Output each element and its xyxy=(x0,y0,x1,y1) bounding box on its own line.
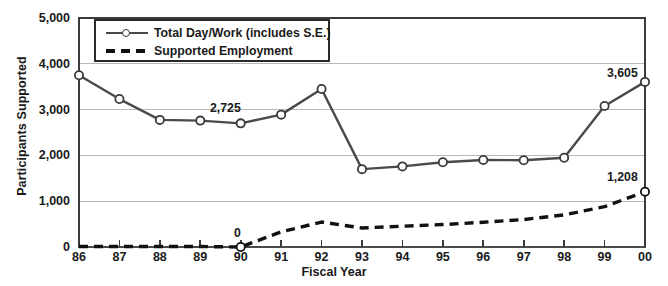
marker-total-94 xyxy=(398,162,406,170)
data-point-markers xyxy=(75,71,649,251)
marker-total-92 xyxy=(317,85,325,93)
line-supported-employment xyxy=(79,192,645,247)
chart-container: Participants Supported Fiscal Year 5,000… xyxy=(0,0,668,286)
marker-total-90 xyxy=(237,119,245,127)
marker-total-89 xyxy=(196,116,204,124)
marker-total-98 xyxy=(560,154,568,162)
marker-se-00 xyxy=(641,188,649,196)
marker-total-96 xyxy=(479,156,487,164)
marker-total-99 xyxy=(600,102,608,110)
marker-total-88 xyxy=(156,116,164,124)
legend-label-total-day-work: Total Day/Work (includes S.E.) xyxy=(154,26,331,40)
legend-item-supported-employment: Supported Employment xyxy=(104,42,322,60)
marker-total-93 xyxy=(358,165,366,173)
marker-total-86 xyxy=(75,71,83,79)
data-label-1208: 1,208 xyxy=(607,170,638,184)
chart-legend: Total Day/Work (includes S.E.) Supported… xyxy=(94,19,330,62)
marker-total-87 xyxy=(115,95,123,103)
data-label-2725: 2,725 xyxy=(210,101,241,115)
marker-total-00 xyxy=(641,78,649,86)
marker-total-97 xyxy=(520,156,528,164)
legend-item-total-day-work: Total Day/Work (includes S.E.) xyxy=(104,24,322,42)
data-label-0: 0 xyxy=(234,226,241,240)
marker-total-95 xyxy=(439,158,447,166)
legend-swatch-dashed-line-icon xyxy=(104,44,150,58)
data-label-3605: 3,605 xyxy=(607,66,638,80)
legend-swatch-solid-line-icon xyxy=(104,26,150,40)
marker-total-91 xyxy=(277,111,285,119)
legend-label-supported-employment: Supported Employment xyxy=(154,44,293,58)
marker-se-90 xyxy=(237,243,245,251)
